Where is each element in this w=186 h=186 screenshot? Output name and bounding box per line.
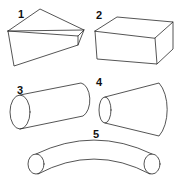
shape-4-frustum: 4: [96, 76, 167, 136]
shape-5-curved-tube: 5: [28, 128, 160, 174]
shapes-diagram: 1 2 3 4 5: [0, 0, 186, 186]
shape-2-box: 2: [95, 9, 173, 64]
shape-1-label: 1: [18, 8, 24, 20]
shape-1-wedge: 1: [8, 8, 84, 66]
shape-2-label: 2: [96, 9, 102, 21]
shape-4-label: 4: [96, 76, 103, 88]
shape-3-label: 3: [17, 84, 23, 96]
shape-5-label: 5: [93, 128, 99, 140]
shape-3-cylinder: 3: [10, 83, 90, 129]
